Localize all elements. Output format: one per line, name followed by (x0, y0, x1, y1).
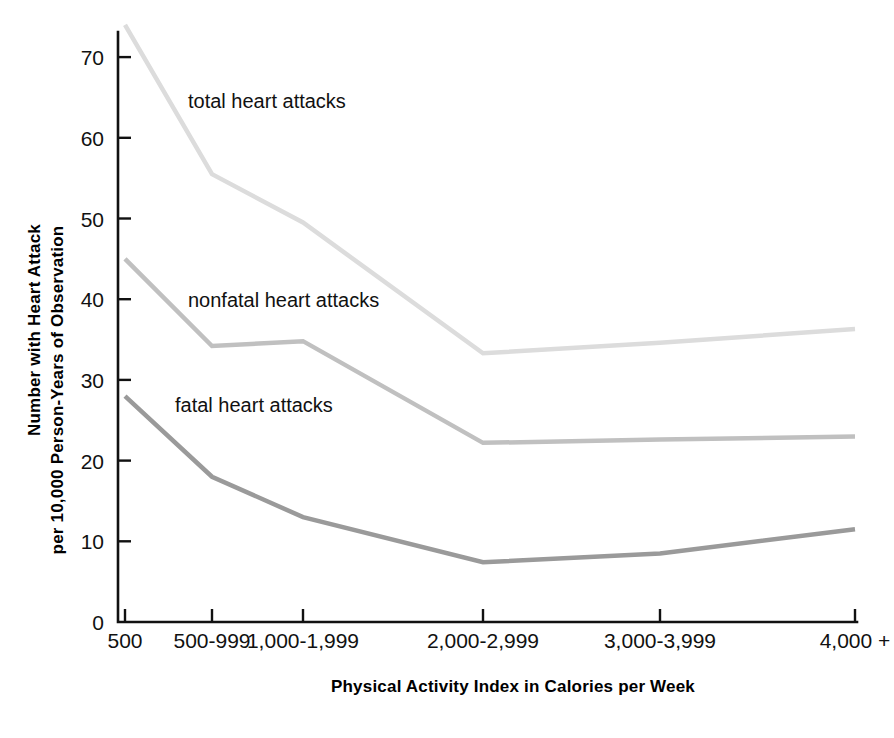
y-axis-title-line1: Number with Heart Attack (25, 224, 44, 436)
x-tick-label: 4,000 + (820, 629, 891, 652)
x-axis-title: Physical Activity Index in Calories per … (331, 677, 695, 696)
y-tick-label: 60 (81, 127, 104, 150)
x-tick-label: 500 (107, 629, 142, 652)
y-tick-label: 50 (81, 208, 104, 231)
x-tick-label: 1,000-1,999 (247, 629, 359, 652)
x-tick-label: 3,000-3,999 (604, 629, 716, 652)
series-label-nonfatal-heart-attacks: nonfatal heart attacks (188, 289, 379, 311)
chart-background (0, 0, 894, 738)
x-tick-label: 2,000-2,999 (427, 629, 539, 652)
y-tick-label: 10 (81, 530, 104, 553)
y-axis-title-line2: per 10,000 Person-Years of Observation (48, 226, 67, 555)
y-tick-label: 20 (81, 450, 104, 473)
chart-figure: 010203040506070 500500-9991,000-1,9992,0… (0, 0, 894, 738)
y-tick-label: 30 (81, 369, 104, 392)
x-tick-label: 500-999 (173, 629, 250, 652)
series-label-fatal-heart-attacks: fatal heart attacks (175, 394, 333, 416)
series-label-total-heart-attacks: total heart attacks (188, 90, 346, 112)
y-tick-label: 70 (81, 46, 104, 69)
y-tick-label: 0 (92, 611, 104, 634)
line-chart: 010203040506070 500500-9991,000-1,9992,0… (0, 0, 894, 738)
y-tick-label: 40 (81, 288, 104, 311)
